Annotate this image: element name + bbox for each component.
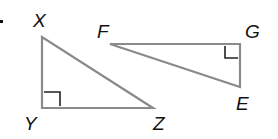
vertex-label-e: E (236, 93, 249, 114)
triangle-xyz-outline (42, 37, 153, 108)
bullet-marker (0, 20, 3, 23)
vertex-label-z: Z (152, 113, 166, 134)
triangle-xyz: X Y Z (24, 10, 166, 134)
vertex-label-x: X (32, 10, 47, 31)
geometry-diagram: X Y Z F G E (0, 0, 278, 139)
right-angle-mark-y (44, 92, 60, 106)
vertex-label-y: Y (24, 113, 38, 134)
right-angle-mark-g (225, 46, 238, 58)
vertex-label-g: G (245, 21, 260, 42)
triangle-fge-outline (110, 44, 240, 87)
vertex-label-f: F (97, 21, 110, 42)
triangle-fge: F G E (97, 21, 260, 114)
